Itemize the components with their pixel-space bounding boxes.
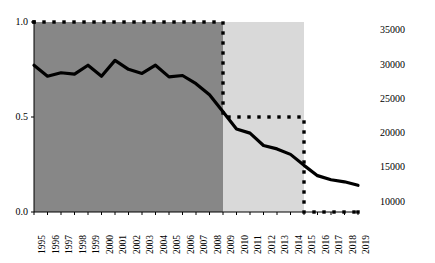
y-axis-left-tick-1: 0.5 (0, 112, 28, 122)
shaded-band-dark (34, 22, 223, 212)
x-axis-tick-2003: 2003 (146, 235, 156, 254)
x-axis-tick-2019: 2019 (362, 235, 372, 254)
x-axis-tick-2011: 2011 (254, 235, 264, 254)
x-axis-tick-1999: 1999 (92, 235, 102, 254)
x-axis-tick-2000: 2000 (106, 235, 116, 254)
y-axis-right-tick-2: 20000 (380, 128, 405, 138)
x-axis-tick-2005: 2005 (173, 235, 183, 254)
x-axis-tick-2018: 2018 (349, 235, 359, 254)
x-axis-tick-1997: 1997 (65, 235, 75, 254)
chart-plot-svg (0, 0, 435, 263)
shaded-band-light (223, 22, 304, 212)
x-axis-tick-2012: 2012 (268, 235, 278, 254)
x-axis-tick-2014: 2014 (295, 235, 305, 254)
x-axis-tick-1998: 1998 (79, 235, 89, 254)
y-axis-right-tick-5: 35000 (380, 25, 405, 35)
chart-container: 0.00.51.0 100001500020000250003000035000… (0, 0, 435, 263)
x-axis-tick-2013: 2013 (281, 235, 291, 254)
x-axis-tick-1996: 1996 (52, 235, 62, 254)
x-axis-tick-2002: 2002 (133, 235, 143, 254)
x-axis-tick-2006: 2006 (187, 235, 197, 254)
x-axis-tick-1995: 1995 (38, 235, 48, 254)
y-axis-right-tick-4: 30000 (380, 60, 405, 70)
x-axis-tick-2007: 2007 (200, 235, 210, 254)
y-axis-right-tick-1: 15000 (380, 162, 405, 172)
x-axis-tick-2015: 2015 (308, 235, 318, 254)
x-axis-tick-2001: 2001 (119, 235, 129, 254)
x-axis-tick-2009: 2009 (227, 235, 237, 254)
x-axis-tick-2016: 2016 (322, 235, 332, 254)
y-axis-right-tick-3: 25000 (380, 94, 405, 104)
x-axis-tick-2008: 2008 (214, 235, 224, 254)
y-axis-left-tick-0: 0.0 (0, 207, 28, 217)
shaded-bands (34, 22, 304, 212)
y-axis-left-tick-2: 1.0 (0, 17, 28, 27)
y-axis-right-tick-0: 10000 (380, 197, 405, 207)
x-axis-tick-2010: 2010 (241, 235, 251, 254)
x-axis-tick-2004: 2004 (160, 235, 170, 254)
x-axis-tick-2017: 2017 (335, 235, 345, 254)
